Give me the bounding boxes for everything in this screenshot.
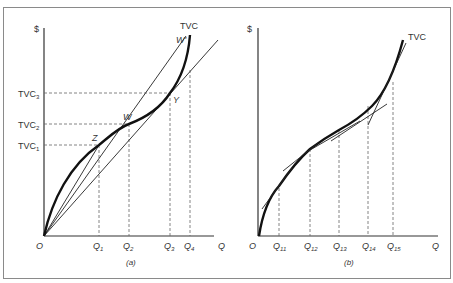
- x-tick-q15: Q15: [387, 241, 401, 252]
- x-tick-q11: Q11: [273, 241, 286, 252]
- tvc-label-b: TVC: [408, 32, 427, 42]
- y-tick-tvc2: TVC2: [18, 120, 40, 131]
- tangents-b: [262, 43, 406, 209]
- point-z: Z: [91, 133, 98, 143]
- tvc-label-a: TVC: [180, 21, 199, 31]
- tvc-figure: $ TVC W' Y W Z TVC3 TVC2 TVC1 O Q1 Q2 Q3…: [0, 0, 453, 283]
- x-tick-q12: Q12: [304, 241, 318, 252]
- caption-b: (b): [344, 258, 354, 267]
- x-tick-q4: Q4: [184, 241, 195, 252]
- x-tick-q1: Q1: [93, 241, 103, 252]
- y-axis-label-b: $: [247, 24, 252, 34]
- y-tick-tvc3: TVC3: [18, 89, 40, 100]
- point-y: Y: [173, 95, 180, 105]
- figure-frame: [4, 8, 451, 279]
- y-axis-label-a: $: [34, 24, 39, 34]
- x-axis-label-a: Q: [218, 241, 225, 251]
- origin-label-b: O: [249, 241, 256, 251]
- x-tick-q2: Q2: [123, 241, 134, 252]
- x-axis-label-b: Q: [432, 241, 439, 251]
- x-tick-q14: Q14: [362, 241, 376, 252]
- x-tick-q13: Q13: [333, 241, 347, 252]
- point-w-prime: W': [176, 35, 186, 45]
- rays-a: [44, 36, 218, 236]
- panel-b: $ TVC O Q11 Q12 Q13 Q14 Q15 Q (b): [247, 24, 439, 267]
- y-tick-tvc1: TVC1: [18, 141, 40, 152]
- guides-b: [279, 82, 393, 236]
- caption-a: (a): [126, 258, 136, 267]
- x-tick-q3: Q3: [164, 241, 175, 252]
- origin-label-a: O: [36, 241, 43, 251]
- panel-a: $ TVC W' Y W Z TVC3 TVC2 TVC1 O Q1 Q2 Q3…: [18, 21, 225, 267]
